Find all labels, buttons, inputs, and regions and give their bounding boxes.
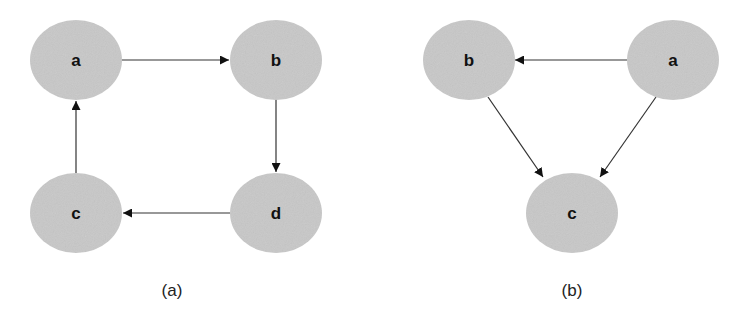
edge-b-to-c: [488, 97, 543, 177]
diagram-a: a b c d (a): [30, 20, 322, 300]
node-label: d: [271, 204, 281, 223]
caption-b: (b): [562, 281, 583, 300]
node-label: a: [668, 51, 678, 70]
node-label: c: [71, 204, 80, 223]
graph-figure: a b c d (a) b a c: [0, 0, 754, 317]
node-c: c: [30, 173, 122, 253]
node-label: a: [71, 51, 81, 70]
edge-a-to-c: [600, 97, 656, 177]
node-label: c: [567, 204, 576, 223]
caption-a: (a): [162, 281, 183, 300]
node-label: b: [464, 51, 474, 70]
node-b: b: [230, 20, 322, 100]
diagram-b: b a c (b): [423, 20, 719, 300]
node-c: c: [526, 173, 618, 253]
node-d: d: [230, 173, 322, 253]
node-a: a: [627, 20, 719, 100]
node-a: a: [30, 20, 122, 100]
node-b: b: [423, 20, 515, 100]
node-label: b: [271, 51, 281, 70]
